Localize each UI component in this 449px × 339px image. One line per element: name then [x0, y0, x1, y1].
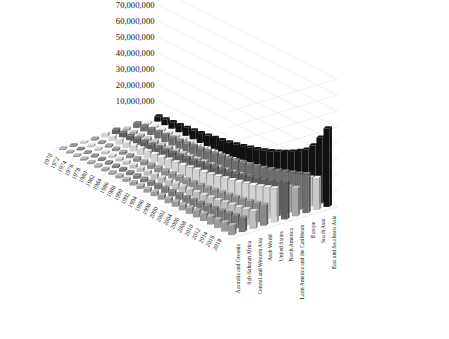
bar	[313, 176, 321, 210]
series-label: South Asia	[320, 218, 326, 243]
bar	[324, 126, 332, 207]
series-label: Australia and Oceania	[236, 243, 242, 293]
series-label: Sub-Saharan Africa	[246, 240, 252, 284]
series-label: Central and Western Asia	[257, 237, 263, 294]
bar	[239, 216, 247, 232]
bar	[260, 203, 268, 226]
chart-container: 10,000,00020,000,00030,000,00040,000,000…	[0, 0, 449, 339]
y-tick-label: 20,000,000	[116, 80, 155, 90]
series-label: United States	[278, 231, 284, 261]
series-label: Arab World	[267, 234, 273, 261]
bar	[281, 180, 289, 219]
bar	[292, 186, 300, 217]
bar	[249, 209, 257, 229]
y-tick-label: 40,000,000	[116, 48, 155, 58]
bar	[271, 186, 279, 222]
y-tick-label: 10,000,000	[116, 96, 155, 106]
y-tick-label: 30,000,000	[116, 64, 155, 74]
y-tick-label: 70,000,000	[116, 0, 155, 10]
bar	[228, 223, 236, 235]
series-label: North America	[289, 228, 295, 262]
y-axis-tick-labels: 10,000,00020,000,00030,000,00040,000,000…	[116, 0, 155, 106]
series-label: Europe	[310, 221, 316, 238]
bar-chart-3d: 10,000,00020,000,00030,000,00040,000,000…	[0, 0, 449, 339]
series-label: Latin America and the Caribbean	[299, 225, 305, 299]
y-tick-label: 50,000,000	[116, 32, 155, 42]
y-tick-label: 60,000,000	[116, 16, 155, 26]
series-label: East and Southeast Asia	[331, 215, 337, 269]
bar	[302, 172, 310, 213]
